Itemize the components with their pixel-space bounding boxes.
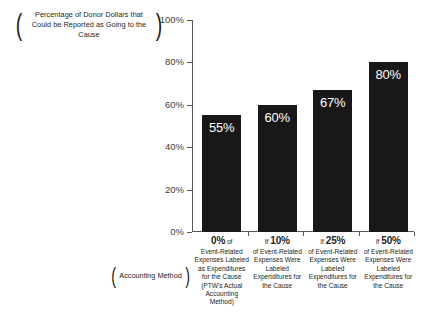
- x-axis-category-label: 0% ofEvent-Related Expenses Labeled as E…: [194, 236, 250, 307]
- x-axis-title-label: Accounting Method: [117, 271, 183, 281]
- y-axis-title: ( Percentage of Donor Dollars that Could…: [14, 10, 164, 40]
- paren-close-icon: ): [185, 265, 190, 287]
- category-label-percent: 0%: [211, 235, 225, 246]
- y-axis-tick-label: 100%: [160, 14, 184, 25]
- category-label-percent: 50%: [381, 235, 400, 246]
- category-label-percent: 10%: [270, 235, 289, 246]
- category-label-heading: If 50%: [360, 236, 416, 247]
- y-axis-tick-label: 40%: [165, 141, 184, 152]
- y-axis-title-label: Percentage of Donor Dollars that Could b…: [24, 10, 154, 40]
- chart-plot-area: 0%20%40%60%80%100% 55%60%67%80%: [192, 20, 414, 232]
- bar: 55%: [202, 115, 241, 232]
- y-axis-tick: 0%: [187, 232, 192, 233]
- x-axis-title: ( Accounting Method ): [110, 265, 191, 287]
- bar: 67%: [313, 90, 352, 232]
- bar: 60%: [258, 105, 297, 232]
- y-axis-tick-label: 60%: [165, 99, 184, 110]
- bar-value-label: 80%: [369, 67, 408, 82]
- y-axis-tick-label: 0%: [170, 226, 184, 237]
- bar-value-label: 60%: [258, 110, 297, 125]
- bar: 80%: [369, 62, 408, 232]
- x-axis-category-labels: 0% ofEvent-Related Expenses Labeled as E…: [192, 236, 414, 324]
- x-axis-category-label: If 10%of Event-Related Expenses Were Lab…: [249, 236, 305, 290]
- category-label-heading: 0% of: [194, 236, 250, 247]
- bar-value-label: 55%: [202, 120, 241, 135]
- paren-open-icon: (: [16, 10, 23, 40]
- bar-series: 55%60%67%80%: [192, 20, 414, 232]
- category-label-of: of: [225, 238, 232, 245]
- category-label-heading: If 10%: [249, 236, 305, 247]
- category-label-body: of Event-Related Expenses Were Labeled E…: [305, 248, 361, 290]
- x-axis-category-label: If 50%of Event-Related Expenses Were Lab…: [360, 236, 416, 290]
- bar-value-label: 67%: [313, 95, 352, 110]
- category-label-percent: 25%: [326, 235, 345, 246]
- x-axis-category-label: If 25%of Event-Related Expenses Were Lab…: [305, 236, 361, 290]
- category-label-body: Event-Related Expenses Labeled as Expend…: [194, 248, 250, 307]
- y-axis-tick-label: 20%: [165, 184, 184, 195]
- y-axis-tick-label: 80%: [165, 56, 184, 67]
- category-label-body: of Event-Related Expenses Were Labeled E…: [249, 248, 305, 290]
- paren-open-icon: (: [111, 265, 116, 287]
- category-label-heading: If 25%: [305, 236, 361, 247]
- category-label-body: of Event-Related Expenses Were Labeled E…: [360, 248, 416, 290]
